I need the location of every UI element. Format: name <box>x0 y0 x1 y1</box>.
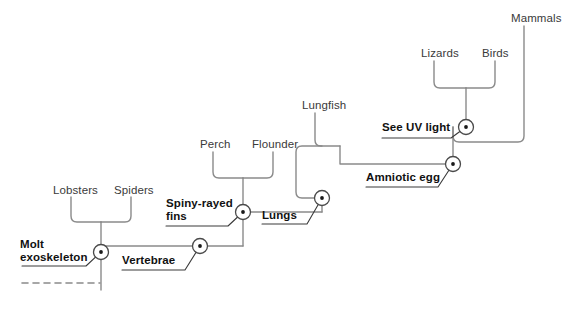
node-molt-exoskeleton <box>94 245 109 260</box>
trait-spiny-line2: fins <box>166 210 233 223</box>
trait-label-lungs: Lungs <box>262 209 297 222</box>
taxon-label-birds: Birds <box>482 47 509 59</box>
taxon-label-lobsters: Lobsters <box>53 184 98 196</box>
branch-lungfish <box>315 113 340 146</box>
branch-lizards <box>434 61 466 88</box>
taxon-label-perch: Perch <box>200 138 231 150</box>
taxon-label-spiders: Spiders <box>114 184 154 196</box>
trait-label-amniotic-egg: Amniotic egg <box>366 171 440 184</box>
branch-amniote-junction <box>340 146 453 164</box>
trait-label-spiny-rayed-fins: Spiny-rayed fins <box>166 197 233 222</box>
node-vertebrae <box>193 239 208 254</box>
branch-spiny-to-lungs <box>296 146 322 198</box>
node-spiny-rayed-fins <box>236 205 251 220</box>
branch-spiders <box>101 197 131 222</box>
branch-perch <box>213 152 243 178</box>
branch-flounder <box>243 152 273 178</box>
taxon-label-flounder: Flounder <box>252 138 298 150</box>
trait-label-see-uv-light: See UV light <box>382 121 450 134</box>
taxon-label-mammals: Mammals <box>511 12 562 24</box>
trait-label-molt-exoskeleton: Molt exoskeleton <box>20 238 88 263</box>
trait-molt-line1: Molt <box>20 238 88 251</box>
trait-spiny-line1: Spiny-rayed <box>166 197 233 210</box>
branch-lobsters <box>71 197 101 222</box>
taxon-label-lizards: Lizards <box>421 47 459 59</box>
trait-label-vertebrae: Vertebrae <box>122 254 175 267</box>
node-amniotic-egg <box>446 157 461 172</box>
node-lungs <box>315 191 330 206</box>
node-see-uv-light <box>459 120 474 135</box>
branch-birds <box>466 61 495 88</box>
cladogram-figure: Lobsters Spiders Perch Flounder Lungfish… <box>0 0 576 313</box>
taxon-label-lungfish: Lungfish <box>302 99 346 111</box>
trait-molt-line2: exoskeleton <box>20 251 88 264</box>
